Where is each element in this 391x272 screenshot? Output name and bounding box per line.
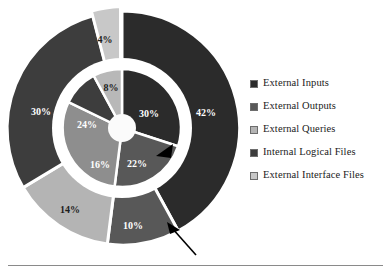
legend-label-external-interface-files: External Interface Files (263, 170, 364, 181)
legend-swatch-icon-external-queries (250, 126, 258, 134)
double-donut-chart: 42% 10% 14% 30% 4% 30% 22% 16% 24% 8% (0, 0, 250, 262)
legend-swatch-icon-external-interface-files (250, 172, 258, 180)
outer-label-external-queries: 14% (60, 204, 80, 215)
legend-item-external-interface-files[interactable]: External Interface Files (250, 164, 391, 187)
inner-label-external-inputs: 30% (139, 108, 159, 119)
legend-swatch-icon-internal-logical-files (250, 149, 258, 157)
legend-item-external-inputs[interactable]: External Inputs (250, 72, 391, 95)
chart-legend: External Inputs External Outputs Externa… (250, 72, 391, 187)
legend-item-external-queries[interactable]: External Queries (250, 118, 391, 141)
outer-label-external-outputs: 10% (123, 220, 143, 231)
legend-item-internal-logical-files[interactable]: Internal Logical Files (250, 141, 391, 164)
inner-label-internal-logical-files: 24% (77, 119, 97, 130)
bottom-divider-rule (8, 265, 383, 266)
outer-label-external-inputs: 42% (196, 107, 216, 118)
legend-label-internal-logical-files: Internal Logical Files (263, 147, 356, 158)
figure-container: 42% 10% 14% 30% 4% 30% 22% 16% 24% 8% (0, 0, 391, 272)
outer-label-internal-logical-files: 30% (31, 106, 51, 117)
legend-swatch-icon-external-inputs (250, 80, 258, 88)
legend-swatch-icon-external-outputs (250, 103, 258, 111)
legend-label-external-inputs: External Inputs (263, 78, 329, 89)
outer-label-external-interface-files: 4% (98, 34, 113, 45)
legend-label-external-outputs: External Outputs (263, 101, 336, 112)
inner-label-external-interface-files: 8% (104, 82, 119, 93)
chart-center-hub (108, 114, 136, 142)
pie-chart-svg: 42% 10% 14% 30% 4% 30% 22% 16% 24% 8% (0, 0, 250, 262)
legend-item-external-outputs[interactable]: External Outputs (250, 95, 391, 118)
inner-label-external-queries: 16% (90, 159, 110, 170)
inner-label-external-outputs: 22% (127, 158, 147, 169)
legend-label-external-queries: External Queries (263, 124, 335, 135)
